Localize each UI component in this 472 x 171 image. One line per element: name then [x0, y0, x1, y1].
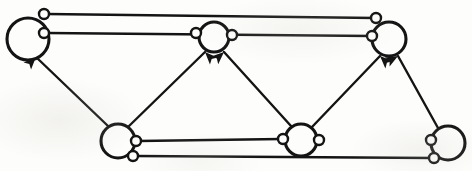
- diagram-canvas: [0, 0, 472, 171]
- edge-bottom-right-to-top-right: [398, 56, 438, 128]
- edge-bottom-middle-to-top-middle: [224, 52, 291, 126]
- bottom-middle-node[interactable]: [285, 124, 317, 156]
- edge-bottom-left-to-bottom-right: [136, 156, 433, 158]
- port-top-middle-right[interactable]: [227, 30, 237, 40]
- port-bottom-left-lower[interactable]: [128, 151, 138, 161]
- port-bottom-middle-left[interactable]: [278, 134, 288, 144]
- top-middle-node[interactable]: [199, 22, 229, 52]
- edge-top-left-to-top-right-upper: [47, 14, 375, 18]
- port-bottom-right-lower[interactable]: [429, 153, 439, 163]
- graph-figure: [0, 0, 472, 171]
- port-top-right-upper[interactable]: [371, 13, 381, 23]
- edge-bottom-left-to-top-middle: [128, 52, 205, 127]
- port-bottom-middle-right[interactable]: [314, 135, 324, 145]
- port-top-left-lower[interactable]: [39, 28, 49, 38]
- port-bottom-right-left[interactable]: [426, 135, 436, 145]
- port-bottom-left-right[interactable]: [131, 136, 141, 146]
- edge-bottom-middle-to-top-right: [312, 56, 380, 127]
- port-top-left-upper[interactable]: [39, 9, 49, 19]
- edge-bottom-left-to-bottom-middle: [139, 139, 281, 141]
- port-top-right-lower[interactable]: [367, 31, 377, 41]
- port-top-middle-left[interactable]: [191, 28, 201, 38]
- edge-bottom-left-to-top-left: [36, 57, 108, 126]
